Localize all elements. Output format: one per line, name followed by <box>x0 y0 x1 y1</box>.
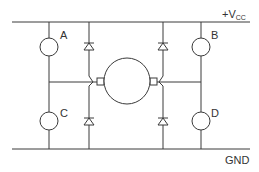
diode-bottom-right-icon <box>158 118 168 125</box>
h-bridge-diagram: A B C D +VCC GND <box>0 0 259 172</box>
switch-c-icon <box>40 112 58 130</box>
motor-terminal-right <box>150 78 157 85</box>
right-diode-jog <box>159 76 163 82</box>
vcc-label-main: +V <box>222 8 236 20</box>
diode-top-left-icon <box>84 43 94 50</box>
motor-icon <box>104 58 150 104</box>
vcc-label-sub: CC <box>236 14 246 21</box>
diode-top-right-icon <box>158 43 168 50</box>
vcc-label: +VCC <box>222 8 246 21</box>
switch-b-icon <box>192 38 210 56</box>
left-diode-jog <box>89 76 93 82</box>
motor-terminal-left <box>97 78 104 85</box>
gnd-label: GND <box>225 154 250 166</box>
left-diode-jog-low <box>89 82 93 86</box>
switch-d-icon <box>192 112 210 130</box>
switch-a-label: A <box>60 29 68 41</box>
switch-d-label: D <box>211 107 219 119</box>
right-diode-jog-low <box>159 82 163 86</box>
switch-b-label: B <box>211 29 218 41</box>
diode-bottom-left-icon <box>84 118 94 125</box>
switch-c-label: C <box>60 107 68 119</box>
switch-a-icon <box>40 38 58 56</box>
